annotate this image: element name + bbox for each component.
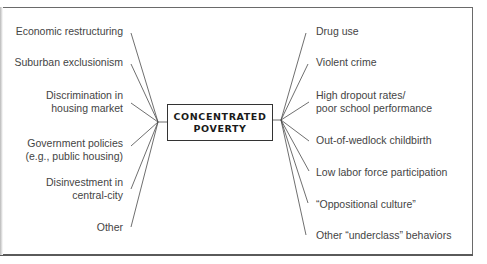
concentrated-poverty-box: CONCENTRATED POVERTY	[167, 104, 273, 141]
effect-oppositional-culture: “Oppositional culture”	[316, 198, 416, 211]
connector-cause-4	[131, 122, 158, 146]
connector-effect-7	[281, 120, 306, 235]
cause-housing-discrimination: Discrimination in housing market	[46, 89, 123, 115]
effect-violent-crime: Violent crime	[316, 56, 377, 69]
connector-cause-6	[131, 122, 158, 227]
connector-cause-1	[131, 33, 158, 122]
effect-low-labor-force: Low labor force participation	[316, 166, 447, 179]
effect-other-underclass: Other “underclass” behaviors	[316, 229, 451, 242]
connector-cause-5	[131, 122, 158, 189]
connector-cause-2	[131, 64, 158, 122]
effect-dropout-rates: High dropout rates/ poor school performa…	[316, 89, 432, 115]
cause-suburban-exclusionism: Suburban exclusionism	[14, 56, 123, 69]
effect-out-of-wedlock: Out-of-wedlock childbirth	[316, 134, 432, 147]
center-label: CONCENTRATED POVERTY	[174, 111, 267, 135]
effect-drug-use: Drug use	[316, 25, 359, 38]
cause-other: Other	[97, 221, 123, 234]
cause-government-policies: Government policies (e.g., public housin…	[26, 137, 123, 163]
cause-disinvestment: Disinvestment in central-city	[46, 176, 123, 202]
cause-economic-restructuring: Economic restructuring	[16, 25, 123, 38]
